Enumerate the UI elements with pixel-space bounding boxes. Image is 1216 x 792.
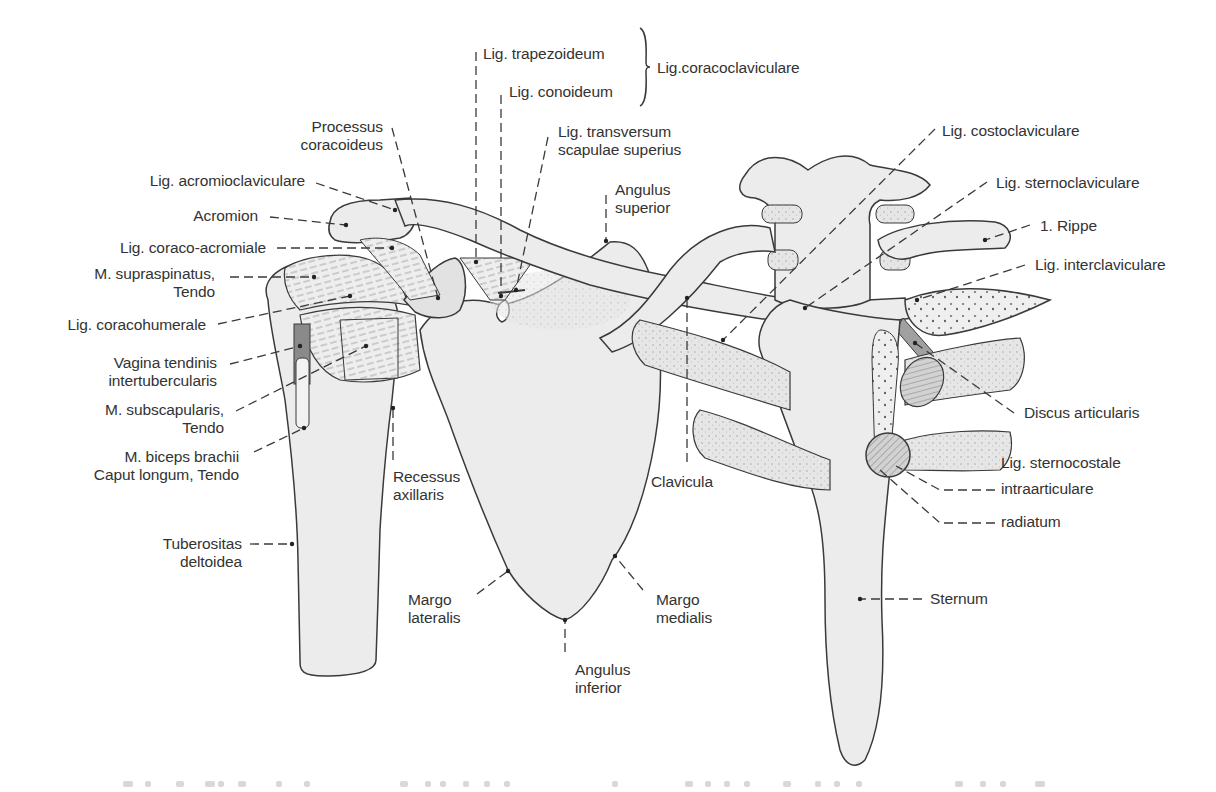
label-lig-interclaviculare: Lig. interclaviculare: [1035, 256, 1166, 274]
anchor-dot-lig-acromioclaviculare: [393, 208, 397, 212]
anchor-dot-angulus-superior: [604, 239, 608, 243]
anchor-dot-lig-sternoclaviculare: [803, 306, 807, 310]
anchor-dot-clavicula: [685, 296, 689, 300]
anchor-dot-rippe-1: [983, 238, 987, 242]
label-rippe-1: 1. Rippe: [1040, 217, 1097, 235]
label-processus-coracoideus: Processus coracoideus: [301, 118, 383, 154]
caption-fragment: [685, 781, 693, 787]
label-sternum: Sternum: [930, 590, 988, 608]
label-lig-acromioclaviculare: Lig. acromioclaviculare: [150, 172, 305, 190]
anchor-dot-margo-medialis: [613, 554, 617, 558]
caption-fragment: [123, 781, 133, 787]
caption-fragment: [400, 781, 408, 787]
label-clavicula: Clavicula: [651, 473, 713, 491]
caption-fragment: [440, 781, 446, 787]
anchor-dot-lig-transversum: [514, 288, 518, 292]
caption-strip-illegible: [0, 776, 1216, 792]
caption-fragment: [145, 781, 151, 787]
anchor-dot-m-supraspinatus: [312, 275, 316, 279]
caption-fragment: [1035, 781, 1045, 787]
caption-fragment: [304, 781, 310, 787]
caption-fragment: [463, 781, 469, 787]
anchor-dot-tuberositas-deltoidea: [290, 542, 294, 546]
label-lig-coraco-acromiale: Lig. coraco-acromiale: [120, 239, 266, 257]
label-m-subscapularis: M. subscapularis, Tendo: [105, 401, 224, 437]
anchor-dot-lig-coracohumerale: [348, 294, 352, 298]
label-angulus-inferior: Angulus inferior: [575, 661, 630, 697]
label-lig-conoideum: Lig. conoideum: [509, 83, 613, 101]
label-recessus-axillaris: Recessus axillaris: [393, 468, 460, 504]
label-vagina-tendinis: Vagina tendinis intertubercularis: [108, 354, 217, 390]
caption-fragment: [705, 781, 711, 787]
caption-fragment: [856, 781, 862, 787]
anchor-dot-lig-trapezoideum: [474, 260, 478, 264]
anchor-dot-angulus-inferior: [563, 618, 567, 622]
leader-margo-lateralis: [477, 571, 508, 594]
caption-fragment: [783, 781, 791, 787]
label-radiatum: radiatum: [1001, 513, 1061, 531]
first-rib-right: [878, 221, 1010, 259]
caption-fragment: [834, 781, 840, 787]
caption-fragment: [612, 781, 618, 787]
leader-margo-medialis: [615, 556, 643, 590]
caption-fragment: [205, 781, 215, 787]
anchor-dot-acromion: [344, 223, 348, 227]
caption-fragment: [815, 781, 821, 787]
caption-fragment: [744, 781, 750, 787]
anchor-dot-sternum: [858, 597, 862, 601]
caption-fragment: [724, 781, 730, 787]
anatomy-figure: Lig. trapezoideumLig. conoideumLig.corac…: [0, 0, 1216, 792]
anchor-dot-vagina-tendinis: [298, 344, 302, 348]
caption-fragment: [176, 781, 184, 787]
label-margo-medialis: Margo medialis: [656, 591, 712, 627]
anchor-dot-lig-coraco-acromiale: [390, 246, 394, 250]
leader-radiatum: [880, 470, 995, 523]
caption-fragment: [980, 781, 986, 787]
anchor-dot-lig-costoclaviculare: [721, 338, 725, 342]
label-intraarticulare: intraarticulare: [1001, 480, 1093, 498]
label-m-biceps-brachii: M. biceps brachii Caput longum, Tendo: [94, 448, 239, 484]
anchor-dot-m-subscapularis: [364, 344, 368, 348]
anchor-dot-lig-conoideum: [499, 294, 503, 298]
anchor-dot-margo-lateralis: [506, 569, 510, 573]
label-lig-sternoclaviculare: Lig. sternoclaviculare: [996, 174, 1139, 192]
caption-fragment: [484, 781, 490, 787]
label-lig-costoclaviculare: Lig. costoclaviculare: [942, 122, 1079, 140]
label-lig-sternocostale: Lig. sternocostale: [1001, 454, 1121, 472]
label-acromion: Acromion: [193, 207, 258, 225]
caption-fragment: [425, 781, 431, 787]
label-lig-coracohumerale: Lig. coracohumerale: [67, 316, 206, 334]
label-lig-trapezoideum: Lig. trapezoideum: [483, 45, 605, 63]
caption-fragment: [955, 781, 963, 787]
label-lig-coracoclaviculare: Lig.coracoclaviculare: [657, 59, 800, 77]
manubrium-cut: [905, 289, 1050, 336]
caption-fragment: [218, 781, 224, 787]
caption-fragment: [1000, 781, 1006, 787]
label-lig-transversum: Lig. transversum scapulae superius: [558, 123, 681, 159]
anchor-dot-m-biceps-brachii: [302, 426, 306, 430]
label-margo-lateralis: Margo lateralis: [408, 591, 461, 627]
coracoclavicular-brace: [640, 28, 650, 106]
caption-fragment: [504, 781, 510, 787]
label-discus-articularis: Discus articularis: [1024, 404, 1139, 422]
anchor-dot-discus-articularis: [913, 341, 917, 345]
biceps-tendon: [296, 358, 309, 428]
anchor-dot-recessus-axillaris: [391, 406, 395, 410]
label-tuberositas-deltoidea: Tuberositas deltoidea: [163, 535, 242, 571]
label-m-supraspinatus: M. supraspinatus, Tendo: [94, 265, 215, 301]
subscapularis-tendon: [340, 318, 398, 380]
anchor-dot-processus-coracoideus: [436, 296, 440, 300]
caption-fragment: [238, 781, 246, 787]
anchor-dot-lig-interclaviculare: [915, 298, 919, 302]
label-angulus-superior: Angulus superior: [615, 181, 670, 217]
caption-fragment: [276, 781, 282, 787]
